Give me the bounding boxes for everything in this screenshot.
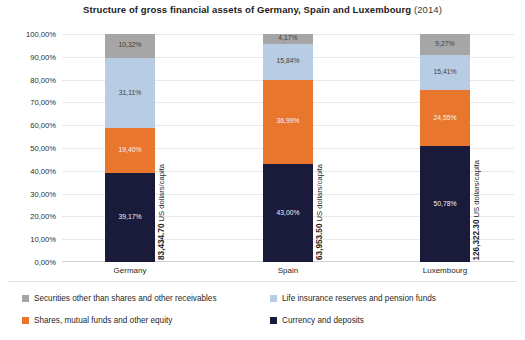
per-capita-unit: US dollars/capita <box>315 164 324 224</box>
legend-swatch-icon <box>270 295 277 302</box>
per-capita-annotation: 63,953.50 US dollars/capita <box>315 164 325 260</box>
bar-segment-value-label: 19,40% <box>118 147 141 154</box>
bar-segment[interactable]: 31,11% <box>105 58 155 129</box>
legend-separator <box>8 281 517 282</box>
chart-title-text: Structure of gross financial assets of G… <box>83 4 411 15</box>
bar-group-germany[interactable]: 10,32%31,11%19,40%39,17%Germany83,434.70… <box>105 34 155 262</box>
y-axis-tick-label: 100,00% <box>0 30 56 39</box>
legend-item-label: Life insurance reserves and pension fund… <box>282 294 436 303</box>
legend-item-label: Securities other than shares and other r… <box>34 294 217 303</box>
bar-segment-value-label: 31,11% <box>119 90 142 97</box>
bar-segment-value-label: 9,27% <box>435 41 454 48</box>
bar-segment[interactable]: 15,84% <box>263 44 313 80</box>
bar-segment-value-label: 10,32% <box>118 42 141 49</box>
bar-segment[interactable]: 4,17% <box>263 34 313 44</box>
legend-swatch-icon <box>270 317 277 324</box>
y-axis-tick-label: 30,00% <box>0 189 56 198</box>
stacked-bar: 10,32%31,11%19,40%39,17% <box>105 34 155 262</box>
per-capita-annotation: 83,434.70 US dollars/capita <box>157 164 167 260</box>
y-axis-tick-label: 60,00% <box>0 121 56 130</box>
per-capita-amount: 63,953.50 <box>315 224 324 260</box>
y-axis: 100,00%90,00%80,00%70,00%60,00%50,00%40,… <box>0 34 56 262</box>
y-axis-tick-label: 0,00% <box>0 258 56 267</box>
legend-item[interactable]: Securities other than shares and other r… <box>22 294 270 303</box>
chart-legend: Securities other than shares and other r… <box>22 287 517 331</box>
bar-segment[interactable]: 19,40% <box>105 128 155 172</box>
bar-segment[interactable]: 43,00% <box>263 164 313 262</box>
bar-segment-value-label: 43,00% <box>276 210 299 217</box>
chart-title-year: (2014) <box>414 4 442 15</box>
per-capita-unit: US dollars/capita <box>157 164 166 224</box>
page-title: Structure of gross financial assets of G… <box>0 4 525 15</box>
plot-area: 10,32%31,11%19,40%39,17%Germany83,434.70… <box>62 34 514 262</box>
bar-segment[interactable]: 36,99% <box>263 80 313 164</box>
bar-segment-value-label: 15,84% <box>276 58 299 65</box>
bar-segment[interactable]: 15,41% <box>420 55 470 90</box>
bar-segment[interactable]: 50,78% <box>420 146 470 262</box>
bar-segment[interactable]: 39,17% <box>105 173 155 262</box>
y-axis-tick-label: 70,00% <box>0 98 56 107</box>
chart-container: Structure of gross financial assets of G… <box>0 0 525 340</box>
per-capita-amount: 126,322.30 <box>472 219 481 260</box>
stacked-bar: 4,17%15,84%36,99%43,00% <box>263 34 313 262</box>
bar-segment[interactable]: 10,32% <box>105 34 155 58</box>
y-axis-tick-label: 40,00% <box>0 166 56 175</box>
legend-swatch-icon <box>22 317 29 324</box>
bar-segment[interactable]: 9,27% <box>420 34 470 55</box>
per-capita-unit: US dollars/capita <box>472 160 481 220</box>
legend-swatch-icon <box>22 295 29 302</box>
bar-segment-value-label: 24,55% <box>433 115 456 122</box>
legend-item-label: Shares, mutual funds and other equity <box>34 316 172 325</box>
bar-group-luxembourg[interactable]: 9,27%15,41%24,55%50,78%Luxembourg126,322… <box>420 34 470 262</box>
y-axis-tick-label: 50,00% <box>0 144 56 153</box>
per-capita-amount: 83,434.70 <box>157 224 166 260</box>
y-axis-tick-label: 20,00% <box>0 212 56 221</box>
y-axis-tick-label: 10,00% <box>0 235 56 244</box>
bar-segment-value-label: 4,17% <box>278 35 297 42</box>
bar-segment-value-label: 15,41% <box>433 69 456 76</box>
x-axis-category-label: Spain <box>233 266 343 275</box>
stacked-bar: 9,27%15,41%24,55%50,78% <box>420 34 470 262</box>
per-capita-annotation: 126,322.30 US dollars/capita <box>472 160 482 261</box>
bar-segment[interactable]: 24,55% <box>420 90 470 146</box>
y-axis-tick-label: 80,00% <box>0 75 56 84</box>
legend-item[interactable]: Life insurance reserves and pension fund… <box>270 294 518 303</box>
x-axis-category-label: Luxembourg <box>390 266 500 275</box>
y-axis-tick-label: 90,00% <box>0 52 56 61</box>
bar-segment-value-label: 39,17% <box>118 214 141 221</box>
bar-segment-value-label: 36,99% <box>276 118 299 125</box>
bar-segment-value-label: 50,78% <box>433 201 456 208</box>
legend-item-label: Currency and deposits <box>282 316 364 325</box>
legend-item[interactable]: Shares, mutual funds and other equity <box>22 316 270 325</box>
x-axis-category-label: Germany <box>75 266 185 275</box>
bar-group-spain[interactable]: 4,17%15,84%36,99%43,00%Spain63,953.50 US… <box>263 34 313 262</box>
legend-item[interactable]: Currency and deposits <box>270 316 518 325</box>
